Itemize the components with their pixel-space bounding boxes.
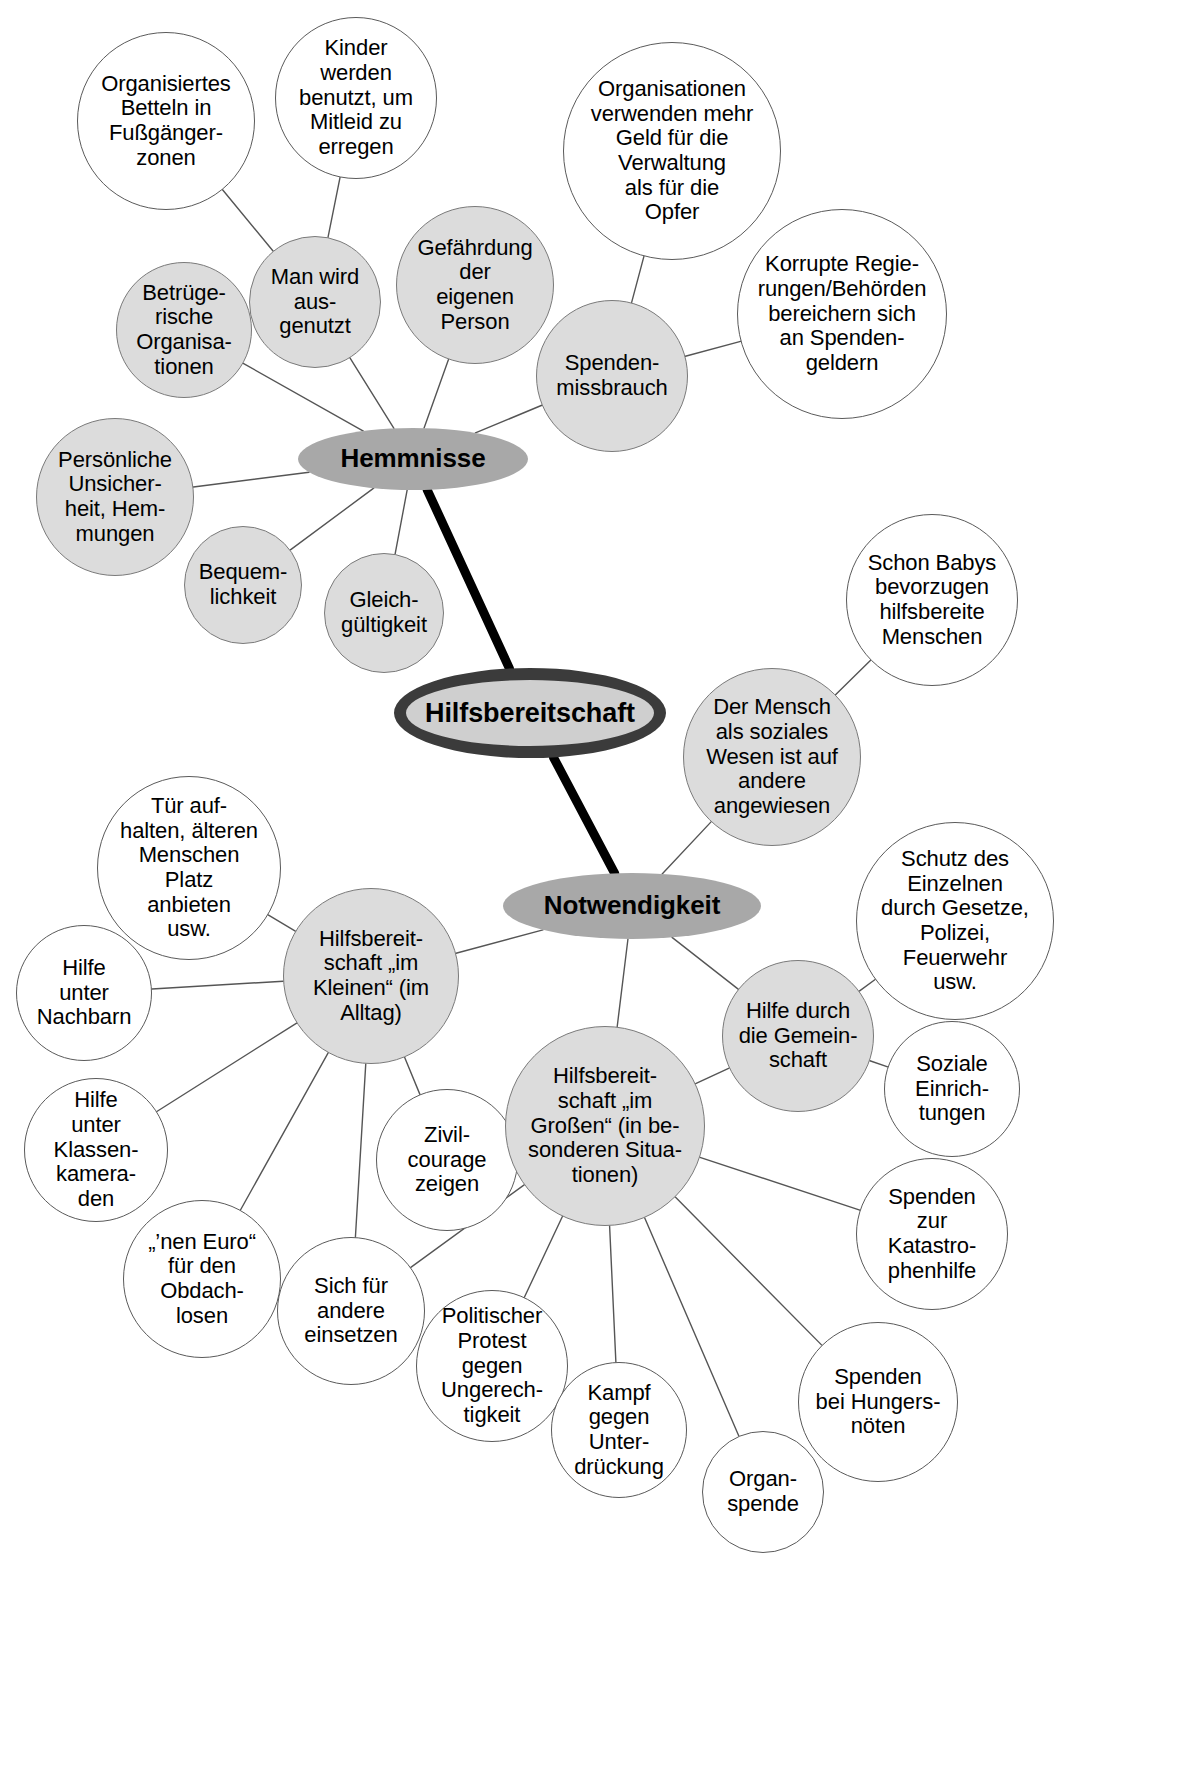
leaf-node-label: Organ- spende bbox=[705, 1467, 821, 1516]
leaf-node-label: Kinder werden benutzt, um Mitleid zu err… bbox=[278, 36, 434, 159]
edge-organisationen-to-spendenmiss bbox=[632, 256, 644, 302]
edge-gleichgueltig-to-hemmnisse bbox=[395, 490, 407, 554]
leaf-node-gefaehrdung[interactable]: Gefährdung der eigenen Person bbox=[396, 206, 554, 364]
edge-sozeinricht-to-gemeinschaft bbox=[870, 1061, 888, 1067]
leaf-node-label: Hilfe unter Nachbarn bbox=[19, 956, 149, 1030]
edge-sozialeswesen-to-notwendigkeit bbox=[662, 822, 711, 874]
leaf-node-label: Tür auf- halten, älteren Menschen Platz … bbox=[100, 794, 278, 942]
leaf-node-kampf[interactable]: Kampf gegen Unter- drückung bbox=[551, 1362, 687, 1498]
edge-klassenkam-to-kleinen bbox=[157, 1023, 297, 1111]
leaf-node-label: Korrupte Regie- rungen/Behörden bereiche… bbox=[740, 252, 944, 375]
edge-katastrophe-to-grossen bbox=[700, 1157, 860, 1210]
leaf-node-schutz[interactable]: Schutz des Einzelnen durch Gesetze, Poli… bbox=[856, 822, 1054, 1020]
leaf-node-organspende[interactable]: Organ- spende bbox=[702, 1431, 824, 1553]
edge-kleinen-to-notwendigkeit bbox=[456, 930, 543, 953]
leaf-node-label: Schutz des Einzelnen durch Gesetze, Poli… bbox=[859, 847, 1051, 995]
edge-sicheinsetzen-to-kleinen bbox=[355, 1064, 365, 1237]
leaf-node-gleichgueltig[interactable]: Gleich- gültigkeit bbox=[324, 553, 444, 673]
leaf-node-label: Schon Babys bevorzugen hilfsbereite Mens… bbox=[849, 551, 1015, 650]
mindmap-canvas: HemmnisseHilfsbereitschaftNotwendigkeitO… bbox=[0, 0, 1178, 1787]
edge-hilfsbereitschaft-to-notwendigkeit bbox=[553, 757, 614, 873]
edge-bequemlich-to-hemmnisse bbox=[290, 488, 373, 550]
leaf-node-kinder[interactable]: Kinder werden benutzt, um Mitleid zu err… bbox=[275, 17, 437, 179]
leaf-node-label: Der Mensch als soziales Wesen ist auf an… bbox=[686, 695, 858, 818]
leaf-node-label: Hilfsbereit- schaft „im Kleinen“ (im All… bbox=[286, 927, 456, 1026]
edge-betruegerisch-to-hemmnisse bbox=[243, 363, 363, 431]
leaf-node-label: Organisationen verwenden mehr Geld für d… bbox=[566, 77, 778, 225]
leaf-node-label: Hilfsbereit- schaft „im Großen“ (in be- … bbox=[508, 1064, 702, 1187]
leaf-node-label: Spenden bei Hungers- nöten bbox=[801, 1365, 955, 1439]
leaf-node-label: Gleich- gültigkeit bbox=[327, 588, 441, 637]
leaf-node-klassenkam[interactable]: Hilfe unter Klassen- kamera- den bbox=[24, 1078, 168, 1222]
leaf-node-spendenmiss[interactable]: Spenden- missbrauch bbox=[536, 300, 688, 452]
leaf-node-label: Persönliche Unsicher- heit, Hem- mungen bbox=[39, 448, 191, 547]
edge-unsicherheit-to-hemmnisse bbox=[193, 472, 309, 487]
leaf-node-katastrophe[interactable]: Spenden zur Katastro- phenhilfe bbox=[856, 1158, 1008, 1310]
leaf-node-bequemlich[interactable]: Bequem- lichkeit bbox=[184, 526, 302, 644]
hub-node-label: Hilfsbereitschaft bbox=[408, 698, 652, 728]
leaf-node-label: Gefährdung der eigenen Person bbox=[399, 236, 551, 335]
leaf-node-hungersnot[interactable]: Spenden bei Hungers- nöten bbox=[798, 1322, 958, 1482]
leaf-node-grossen[interactable]: Hilfsbereit- schaft „im Großen“ (in be- … bbox=[505, 1026, 705, 1226]
edge-euro-to-kleinen bbox=[240, 1053, 328, 1210]
leaf-node-label: Soziale Einrich- tungen bbox=[887, 1052, 1017, 1126]
leaf-node-sozeinricht[interactable]: Soziale Einrich- tungen bbox=[884, 1021, 1020, 1157]
leaf-node-label: Sich für andere einsetzen bbox=[280, 1274, 422, 1348]
leaf-node-label: Spenden- missbrauch bbox=[539, 351, 685, 400]
leaf-node-label: Hilfe unter Klassen- kamera- den bbox=[27, 1088, 165, 1211]
edge-betteln-to-ausgenutzt bbox=[223, 190, 273, 251]
leaf-node-label: Politischer Protest gegen Ungerech- tigk… bbox=[419, 1304, 565, 1427]
hub-node-hemmnisse[interactable]: Hemmnisse bbox=[298, 428, 528, 490]
leaf-node-label: Zivil- courage zeigen bbox=[379, 1123, 515, 1197]
leaf-node-babys[interactable]: Schon Babys bevorzugen hilfsbereite Mens… bbox=[846, 514, 1018, 686]
leaf-node-label: Kampf gegen Unter- drückung bbox=[554, 1381, 684, 1480]
leaf-node-sicheinsetzen[interactable]: Sich für andere einsetzen bbox=[277, 1237, 425, 1385]
leaf-node-nachbarn[interactable]: Hilfe unter Nachbarn bbox=[16, 925, 152, 1061]
leaf-node-zivilcourage[interactable]: Zivil- courage zeigen bbox=[376, 1089, 518, 1231]
leaf-node-sozialeswesen[interactable]: Der Mensch als soziales Wesen ist auf an… bbox=[683, 668, 861, 846]
hub-node-label: Hemmnisse bbox=[300, 444, 526, 473]
hub-node-hilfsbereitschaft[interactable]: Hilfsbereitschaft bbox=[394, 668, 666, 758]
edge-hemmnisse-to-hilfsbereitschaft bbox=[427, 490, 509, 669]
leaf-node-label: „’nen Euro“ für den Obdach- losen bbox=[126, 1230, 278, 1329]
edge-kampf-to-grossen bbox=[610, 1226, 616, 1362]
leaf-node-kleinen[interactable]: Hilfsbereit- schaft „im Kleinen“ (im All… bbox=[283, 888, 459, 1064]
leaf-node-protest[interactable]: Politischer Protest gegen Ungerech- tigk… bbox=[416, 1290, 568, 1442]
edge-nachbarn-to-kleinen bbox=[152, 981, 283, 989]
leaf-node-korrupt[interactable]: Korrupte Regie- rungen/Behörden bereiche… bbox=[737, 209, 947, 419]
leaf-node-ausgenutzt[interactable]: Man wird aus- genutzt bbox=[249, 236, 381, 368]
leaf-node-gemeinschaft[interactable]: Hilfe durch die Gemein- schaft bbox=[722, 960, 874, 1112]
leaf-node-betruegerisch[interactable]: Betrüge- rische Organisa- tionen bbox=[116, 262, 252, 398]
edge-spendenmiss-to-hemmnisse bbox=[475, 405, 541, 433]
leaf-node-organisationen[interactable]: Organisationen verwenden mehr Geld für d… bbox=[563, 42, 781, 260]
edge-kinder-to-ausgenutzt bbox=[328, 177, 340, 237]
edge-gemeinschaft-to-notwendigkeit bbox=[672, 937, 738, 989]
edge-ausgenutzt-to-hemmnisse bbox=[350, 358, 394, 428]
leaf-node-tuer[interactable]: Tür auf- halten, älteren Menschen Platz … bbox=[97, 776, 281, 960]
hub-node-notwendigkeit[interactable]: Notwendigkeit bbox=[503, 873, 761, 939]
edge-grossen-to-notwendigkeit bbox=[617, 939, 628, 1027]
leaf-node-unsicherheit[interactable]: Persönliche Unsicher- heit, Hem- mungen bbox=[36, 418, 194, 576]
edge-zivilcourage-to-kleinen bbox=[405, 1057, 420, 1094]
leaf-node-label: Spenden zur Katastro- phenhilfe bbox=[859, 1185, 1005, 1284]
leaf-node-label: Hilfe durch die Gemein- schaft bbox=[725, 999, 871, 1073]
leaf-node-euro[interactable]: „’nen Euro“ für den Obdach- losen bbox=[123, 1200, 281, 1358]
leaf-node-label: Man wird aus- genutzt bbox=[252, 265, 378, 339]
edge-babys-to-sozialeswesen bbox=[836, 660, 871, 694]
leaf-node-betteln[interactable]: Organisiertes Betteln in Fußgänger- zone… bbox=[77, 32, 255, 210]
edge-gefaehrdung-to-hemmnisse bbox=[424, 359, 448, 428]
edge-hungersnot-to-grossen bbox=[675, 1197, 821, 1345]
leaf-node-label: Bequem- lichkeit bbox=[187, 560, 299, 609]
hub-node-label: Notwendigkeit bbox=[505, 891, 759, 920]
leaf-node-label: Betrüge- rische Organisa- tionen bbox=[119, 281, 249, 380]
edge-protest-to-grossen bbox=[524, 1216, 562, 1297]
edge-korrupt-to-spendenmiss bbox=[685, 341, 740, 356]
leaf-node-label: Organisiertes Betteln in Fußgänger- zone… bbox=[80, 72, 252, 171]
